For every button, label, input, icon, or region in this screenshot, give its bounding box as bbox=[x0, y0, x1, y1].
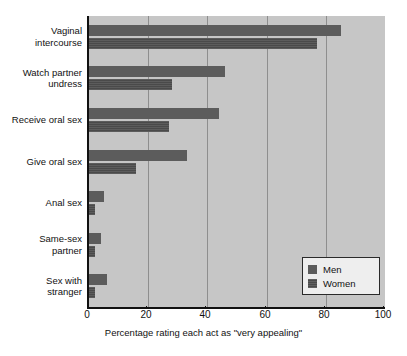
tick-label-20: 20 bbox=[140, 309, 151, 321]
bar-women-5 bbox=[89, 246, 95, 257]
category-label-1: Watch partner undress bbox=[0, 67, 82, 90]
bar-men-0 bbox=[89, 25, 341, 36]
tick-label-0: 0 bbox=[84, 309, 90, 321]
category-label-3: Give oral sex bbox=[0, 156, 82, 168]
tick-label-100: 100 bbox=[375, 309, 392, 321]
category-label-0: Vaginal intercourse bbox=[0, 25, 82, 48]
category-label-6: Sex with stranger bbox=[0, 275, 82, 298]
bar-men-6 bbox=[89, 274, 107, 285]
bar-women-2 bbox=[89, 121, 169, 132]
chart-legend: Men Women bbox=[302, 257, 380, 295]
gridline-40 bbox=[207, 16, 208, 307]
category-label-4: Anal sex bbox=[0, 197, 82, 209]
bar-chart: Vaginal intercourseWatch partner undress… bbox=[0, 0, 407, 356]
bar-men-1 bbox=[89, 66, 225, 77]
legend-item-men: Men bbox=[308, 262, 374, 276]
legend-swatch-men-icon bbox=[308, 265, 317, 274]
tick-label-60: 60 bbox=[259, 309, 270, 321]
tick-label-40: 40 bbox=[199, 309, 210, 321]
bar-men-3 bbox=[89, 150, 187, 161]
bar-men-4 bbox=[89, 191, 104, 202]
bar-women-1 bbox=[89, 79, 172, 90]
bar-men-2 bbox=[89, 108, 219, 119]
bar-women-0 bbox=[89, 38, 317, 49]
legend-item-women: Women bbox=[308, 276, 374, 290]
legend-label-women: Women bbox=[323, 278, 356, 289]
tick-label-80: 80 bbox=[318, 309, 329, 321]
gridline-20 bbox=[148, 16, 149, 307]
x-axis-title: Percentage rating each act as "very appe… bbox=[0, 327, 407, 339]
bar-women-3 bbox=[89, 163, 136, 174]
bar-women-4 bbox=[89, 204, 95, 215]
bar-women-6 bbox=[89, 287, 95, 298]
legend-label-men: Men bbox=[323, 264, 341, 275]
legend-swatch-women-icon bbox=[308, 279, 317, 288]
category-label-5: Same-sex partner bbox=[0, 233, 82, 256]
gridline-60 bbox=[267, 16, 268, 307]
category-axis-labels: Vaginal intercourseWatch partner undress… bbox=[0, 16, 86, 307]
category-label-2: Receive oral sex bbox=[0, 114, 82, 126]
bar-men-5 bbox=[89, 233, 101, 244]
value-axis-ticks: 020406080100 bbox=[0, 309, 407, 325]
